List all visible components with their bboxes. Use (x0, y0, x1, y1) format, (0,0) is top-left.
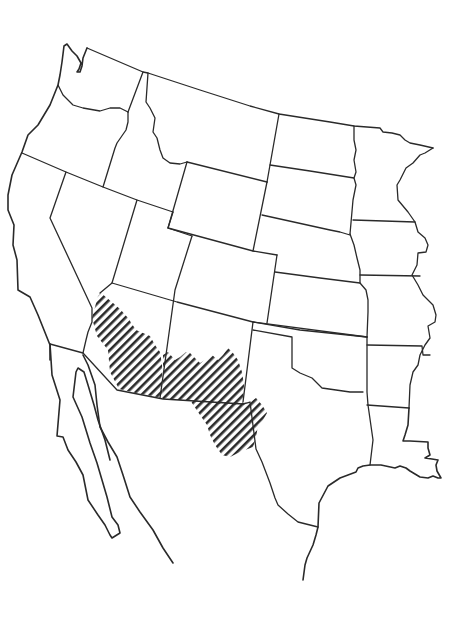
range-map: Western and central United States with n… (0, 0, 473, 624)
minnesota-east-border (397, 148, 436, 408)
ks-ok-border (253, 322, 367, 337)
ia-mo-border (360, 275, 420, 276)
baja-west-coast (50, 344, 120, 538)
or-ca-nv-border (22, 153, 173, 212)
coastlines (8, 44, 441, 580)
ne-ks-border (275, 272, 360, 283)
or-id-border (103, 112, 128, 187)
ne-ia-border (350, 234, 368, 337)
nv-ut-border (100, 200, 137, 293)
pacific-coast-north (8, 44, 87, 360)
mn-ia-border (353, 220, 415, 222)
wy-east-border (253, 182, 267, 251)
wa-or-border (58, 85, 128, 112)
dakota-mn-border (350, 126, 356, 234)
wa-id-border (128, 72, 143, 112)
az-north-border (112, 283, 367, 337)
nm-east-border (243, 322, 253, 402)
ok-panhandle-border (253, 330, 363, 392)
ar-la-border (367, 405, 409, 408)
id-mt-border (146, 73, 187, 164)
range-arizona (92, 293, 163, 398)
nd-sd-border (270, 165, 354, 178)
mt-nd-border (267, 114, 279, 182)
ar-ok-tx-border (367, 337, 373, 465)
range-new-mexico (163, 348, 244, 405)
map-canvas (0, 0, 473, 624)
ut-wy-border (168, 212, 192, 236)
wy-south-border (168, 228, 277, 255)
sd-ne-border (262, 215, 350, 235)
canada-border (87, 48, 433, 148)
co-east-border (267, 255, 277, 323)
hatched-range-area (92, 293, 267, 457)
ca-nv-border (50, 172, 92, 353)
mt-south-border (187, 162, 267, 182)
